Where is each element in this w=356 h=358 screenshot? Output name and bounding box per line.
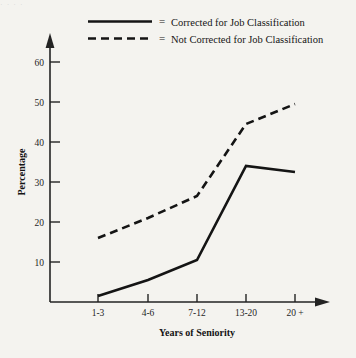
legend-label-corrected: Corrected for Job Classification xyxy=(171,17,306,28)
y-tick-label-50: 50 xyxy=(35,98,45,108)
y-axis-ticks: 60 50 40 30 20 10 xyxy=(35,58,61,268)
x-axis-title: Years of Seniority xyxy=(159,327,235,338)
chart-legend: = Corrected for Job Classification = Not… xyxy=(88,15,324,45)
x-axis-ticks: 1-3 4-6 7-12 13-20 20 + xyxy=(92,294,304,318)
x-tick-label-4-6: 4-6 xyxy=(142,308,155,318)
x-tick-label-1-3: 1-3 xyxy=(92,308,105,318)
chart-axes xyxy=(46,33,330,306)
y-tick-label-40: 40 xyxy=(35,138,45,148)
x-tick-label-20plus: 20 + xyxy=(286,308,303,318)
series-line-corrected xyxy=(98,166,295,296)
y-tick-label-10: 10 xyxy=(35,258,45,268)
legend-equals-sign-2: = xyxy=(159,32,165,44)
series-line-not-corrected xyxy=(98,104,295,238)
legend-entry-corrected: = Corrected for Job Classification xyxy=(88,15,306,28)
x-tick-label-13-20: 13-20 xyxy=(235,308,257,318)
chart-series-group xyxy=(98,104,295,296)
legend-equals-sign-1: = xyxy=(159,15,165,27)
x-axis-arrowhead xyxy=(315,298,330,307)
legend-entry-not-corrected: = Not Corrected for Job Classification xyxy=(88,32,324,45)
y-axis-arrowhead xyxy=(46,33,55,48)
y-tick-label-20: 20 xyxy=(35,218,45,228)
legend-label-not-corrected: Not Corrected for Job Classification xyxy=(171,34,324,45)
y-tick-label-60: 60 xyxy=(35,58,45,68)
x-tick-label-7-12: 7-12 xyxy=(188,308,206,318)
y-axis-title: Percentage xyxy=(16,148,27,196)
chart-svg: = Corrected for Job Classification = Not… xyxy=(0,0,356,358)
y-tick-label-30: 30 xyxy=(35,178,45,188)
chart-figure: = Corrected for Job Classification = Not… xyxy=(0,0,356,358)
